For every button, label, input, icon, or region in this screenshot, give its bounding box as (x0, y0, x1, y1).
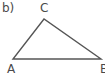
figure-container: b) C A B (0, 0, 105, 77)
vertex-label-c: C (40, 2, 48, 14)
vertex-label-b: B (100, 63, 105, 75)
part-label: b) (2, 2, 14, 14)
vertex-label-a: A (7, 63, 15, 75)
triangle-diagram (0, 0, 105, 77)
triangle-shape (13, 19, 101, 59)
